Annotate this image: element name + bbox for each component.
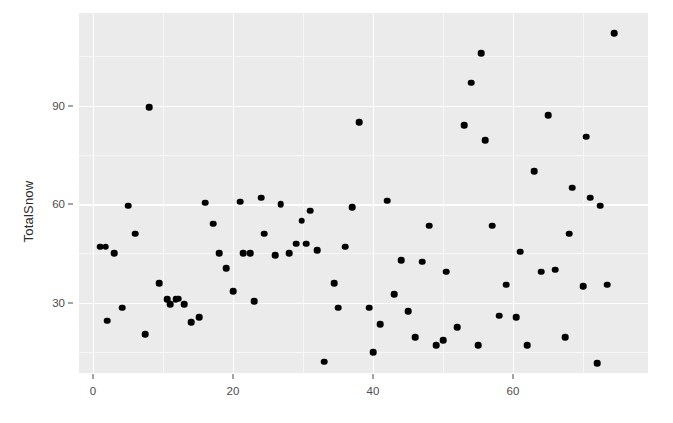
x-tick-mark: [92, 374, 93, 379]
x-axis-tick-labels: 0204060: [0, 0, 673, 423]
x-tick-mark: [372, 374, 373, 379]
x-tick-mark: [232, 374, 233, 379]
x-tick-label: 20: [227, 385, 240, 397]
x-tick-label: 60: [507, 385, 520, 397]
x-tick-label: 40: [367, 385, 380, 397]
x-tick-label: 0: [90, 385, 96, 397]
scatter-plot-figure: TotalSnow 306090 0204060: [0, 0, 673, 423]
x-tick-mark: [512, 374, 513, 379]
